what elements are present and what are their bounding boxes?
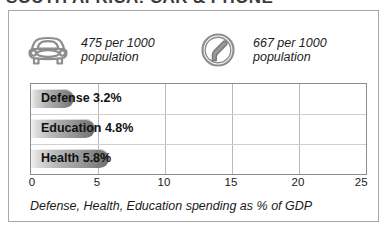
stat-vehicles-value: 475 per 1000 <box>81 36 155 50</box>
stat-phones-unit: population <box>253 50 327 64</box>
bar-chart: Defense 3.2%Education 4.8%Health 5.8% 05… <box>22 83 367 189</box>
chart-caption-box: Defense, Health, Education spending as %… <box>22 197 367 219</box>
bar-label-education: Education 4.8% <box>41 119 133 138</box>
x-tick-20: 20 <box>292 176 305 188</box>
bar-label-health: Health 5.8% <box>41 149 111 168</box>
stat-phones: 667 per 1000 population <box>197 24 327 76</box>
page-title-strip: SOUTH AFRICA: CAR & PHONE <box>0 0 391 9</box>
stat-phones-value: 667 per 1000 <box>253 36 327 50</box>
stat-phones-text: 667 per 1000 population <box>253 36 327 64</box>
gridline-25 <box>366 84 367 174</box>
page-title: SOUTH AFRICA: CAR & PHONE <box>6 0 273 8</box>
telephone-handset-icon <box>197 30 243 70</box>
car-icon <box>25 30 71 70</box>
bar-row-education: Education 4.8% <box>31 114 366 144</box>
stat-vehicles-unit: population <box>81 50 155 64</box>
stat-vehicles: 475 per 1000 population <box>25 24 155 76</box>
x-tick-0: 0 <box>29 176 35 188</box>
chart-x-axis: 0510152025 <box>30 175 367 191</box>
infographic-panel: 475 per 1000 population 667 per 1000 pop… <box>8 10 379 222</box>
bar-row-health: Health 5.8% <box>31 144 366 174</box>
chart-caption: Defense, Health, Education spending as %… <box>30 199 312 213</box>
chart-plot-area: Defense 3.2%Education 4.8%Health 5.8% <box>30 83 367 175</box>
x-tick-5: 5 <box>94 176 100 188</box>
x-tick-25: 25 <box>355 176 368 188</box>
x-tick-15: 15 <box>225 176 238 188</box>
bar-label-defense: Defense 3.2% <box>41 89 122 108</box>
x-tick-10: 10 <box>158 176 171 188</box>
stat-vehicles-text: 475 per 1000 population <box>81 36 155 64</box>
bar-row-defense: Defense 3.2% <box>31 84 366 114</box>
statistics-row: 475 per 1000 population 667 per 1000 pop… <box>9 24 380 76</box>
